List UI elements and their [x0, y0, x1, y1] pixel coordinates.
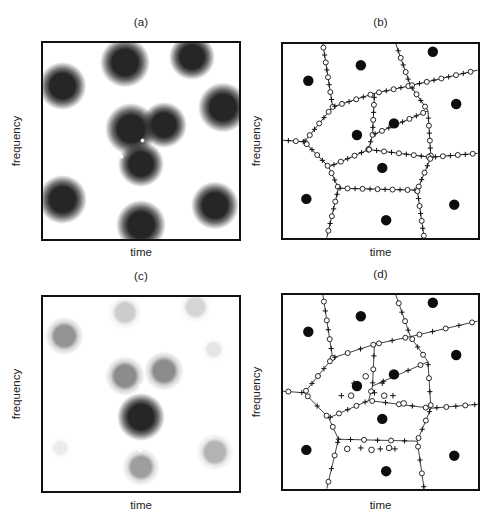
voronoi-plus-marker [323, 308, 328, 313]
voronoi-plus-marker [329, 466, 334, 471]
voronoi-plus-marker [363, 399, 368, 404]
figure-root: (a)timefrequency(b)timefrequency(c)timef… [0, 0, 503, 532]
voronoi-circle-marker [423, 418, 428, 423]
voronoi-plus-marker [427, 389, 432, 394]
voronoi-plus-marker [421, 484, 426, 488]
voronoi-circle-marker [363, 374, 369, 380]
voronoi-center-dot [428, 298, 438, 308]
yaxis-label-d: frequency [250, 357, 264, 427]
voronoi-circle-marker [416, 444, 421, 449]
voronoi-circle-marker [362, 437, 367, 442]
voronoi-circle-marker [345, 351, 350, 356]
voronoi-circle-marker [396, 301, 401, 306]
voronoi-circle-marker [348, 393, 354, 399]
voronoi-edge [428, 362, 431, 408]
voronoi-plus-marker [339, 393, 345, 399]
voronoi-plus-marker [390, 393, 396, 399]
voronoi-circle-marker [330, 424, 335, 429]
voronoi-plus-marker [420, 427, 425, 432]
voronoi-plus-marker [335, 440, 340, 445]
voronoi-plus-marker [405, 368, 410, 373]
voronoi-plus-marker [406, 328, 411, 333]
voronoi-plus-marker [383, 400, 388, 405]
voronoi-circle-marker [418, 363, 423, 368]
voronoi-plus-marker [358, 445, 364, 451]
voronoi-circle-marker [389, 438, 394, 443]
voronoi-circle-marker [410, 337, 415, 342]
voronoi-plus-marker [375, 438, 380, 443]
panel-title-d: (d) [281, 268, 480, 281]
voronoi-center-dot [389, 369, 399, 379]
voronoi-circle-marker [403, 335, 408, 340]
voronoi-circle-marker [369, 447, 375, 453]
voronoi-circle-marker [332, 453, 337, 458]
voronoi-circle-marker [444, 404, 449, 409]
voronoi-plus-marker [378, 446, 384, 452]
voronoi-circle-marker [403, 319, 408, 324]
voronoi-plus-marker [329, 346, 334, 351]
voronoi-circle-marker [470, 320, 475, 325]
voronoi-circle-marker [427, 376, 432, 381]
voronoi-center-dot [356, 311, 366, 321]
voronoi-plus-marker [434, 405, 439, 410]
voronoi-plus-marker [336, 437, 341, 442]
voronoi-plus-marker [472, 402, 477, 407]
voronoi-plus-marker [370, 380, 375, 385]
voronoi-circle-marker [344, 446, 350, 452]
voronoi-cell-centers [301, 298, 461, 477]
voronoi-circle-marker [421, 352, 426, 357]
voronoi-plus-marker [456, 323, 461, 328]
voronoi-center-dot [301, 445, 311, 455]
voronoi-circle-marker [386, 445, 392, 451]
voronoi-circle-marker [416, 436, 421, 441]
voronoi-plus-marker [415, 344, 420, 349]
plot-area-d [281, 293, 480, 491]
voronoi-center-dot [303, 327, 313, 337]
voronoi-center-dot [377, 414, 387, 424]
voronoi-center-dot [451, 350, 461, 360]
voronoi-circle-marker [376, 341, 381, 346]
voronoi-center-dot [449, 450, 459, 460]
voronoi-circle-marker [417, 332, 422, 337]
voronoi-plus-marker [392, 446, 398, 452]
voronoi-edge [333, 344, 375, 358]
voronoi-circle-marker [443, 326, 448, 331]
voronoi-plus-marker [399, 310, 404, 315]
voronoi-circle-marker [324, 318, 329, 323]
voronoi-circle-marker [286, 389, 291, 394]
voronoi-circle-marker [305, 394, 310, 399]
voronoi-circle-marker [428, 403, 433, 408]
voronoi-circle-marker [321, 299, 326, 304]
xaxis-label-d: time [281, 499, 480, 512]
voronoi-circle-marker [327, 337, 332, 342]
voronoi-plus-marker [371, 353, 376, 358]
voronoi-diagram-d [283, 295, 478, 489]
voronoi-center-dot [352, 381, 362, 391]
voronoi-circle-marker [327, 359, 332, 364]
voronoi-plus-marker [358, 346, 363, 351]
voronoi-plus-marker [453, 404, 458, 409]
voronoi-plus-marker [390, 338, 395, 343]
panel-d: (d)timefrequency [0, 0, 503, 532]
voronoi-circle-marker [419, 471, 424, 476]
voronoi-circle-marker [354, 403, 359, 408]
voronoi-edges [283, 295, 478, 489]
voronoi-plus-marker [402, 438, 407, 443]
voronoi-center-dot [381, 466, 391, 476]
voronoi-circle-marker [371, 342, 376, 347]
voronoi-circle-marker [370, 398, 375, 403]
voronoi-circle-marker [401, 401, 407, 407]
voronoi-plus-marker [326, 327, 331, 332]
voronoi-circle-marker [336, 411, 341, 416]
voronoi-circle-marker [315, 374, 320, 379]
voronoi-plus-marker [430, 329, 435, 334]
voronoi-plus-marker [410, 403, 415, 408]
voronoi-plus-marker [417, 457, 422, 462]
voronoi-circle-marker [326, 479, 331, 484]
voronoi-circle-marker [371, 367, 376, 372]
voronoi-edge [373, 344, 375, 386]
voronoi-circle-marker [423, 405, 428, 410]
voronoi-plus-marker [348, 437, 353, 442]
voronoi-circle-marker [463, 403, 468, 408]
voronoi-circle-marker [381, 393, 387, 399]
